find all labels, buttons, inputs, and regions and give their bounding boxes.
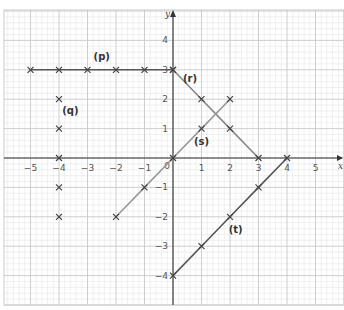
svg-text:−3: −3 (155, 241, 168, 251)
svg-text:y: y (164, 9, 171, 19)
svg-text:−4: −4 (155, 271, 169, 281)
svg-text:5: 5 (313, 163, 319, 173)
series-p (28, 67, 177, 73)
svg-text:1: 1 (162, 124, 168, 134)
series-labels: (p)(q)(r)(s)(t) (62, 51, 242, 235)
svg-text:4: 4 (162, 35, 168, 45)
svg-text:2: 2 (227, 163, 233, 173)
svg-text:−2: −2 (109, 163, 122, 173)
svg-text:−3: −3 (81, 163, 94, 173)
svg-text:−4: −4 (52, 163, 66, 173)
svg-text:−5: −5 (24, 163, 37, 173)
svg-text:−1: −1 (138, 163, 151, 173)
svg-text:−2: −2 (155, 212, 168, 222)
series-label: (r) (183, 73, 197, 84)
svg-text:4: 4 (284, 163, 290, 173)
svg-text:1: 1 (199, 163, 205, 173)
series-label: (q) (62, 105, 78, 116)
svg-text:2: 2 (162, 94, 168, 104)
svg-text:3: 3 (256, 163, 262, 173)
svg-text:−1: −1 (155, 182, 168, 192)
series-label: (p) (94, 51, 110, 62)
series-label: (s) (194, 136, 209, 147)
svg-text:x: x (338, 161, 343, 171)
series-label: (t) (229, 224, 243, 235)
coordinate-graph: xy −5−4−3−2−112345−4−3−2−112340 (p)(q)(r… (0, 0, 344, 310)
